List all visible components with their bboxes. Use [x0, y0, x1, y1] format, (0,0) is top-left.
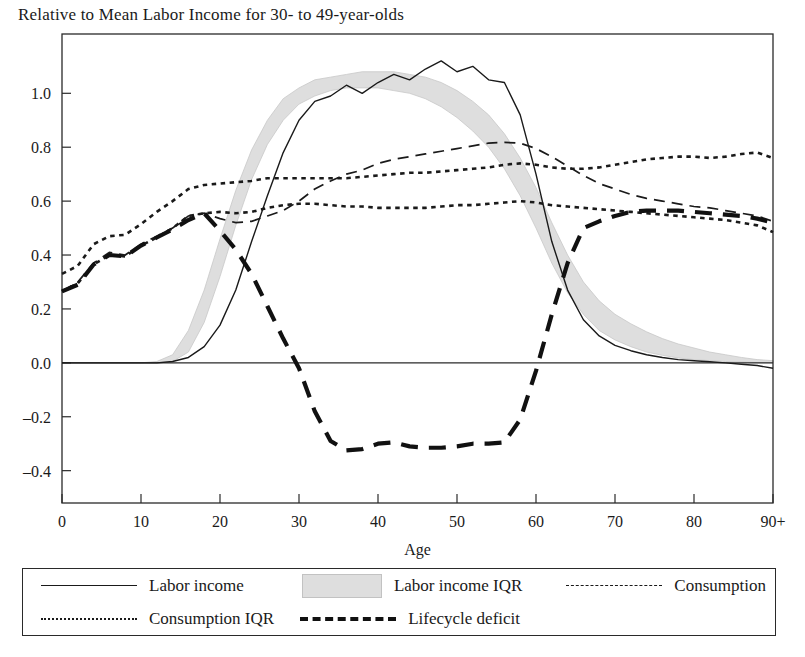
x-axis-tick-label: 90+	[760, 513, 785, 530]
plot-frame	[62, 34, 773, 503]
series-consumption-iqr-upper	[62, 153, 773, 274]
series-labor-income-iqr-band	[62, 72, 773, 363]
legend-row-1: Labor income Labor income IQR Consumptio…	[23, 569, 775, 602]
x-axis-tick-label: 40	[370, 513, 386, 530]
x-axis-tick-label: 30	[291, 513, 307, 530]
y-axis-tick-label: 0.6	[31, 193, 51, 210]
legend-label-labor-income: Labor income	[149, 576, 244, 596]
legend-label-consumption: Consumption	[674, 576, 766, 596]
legend-row-2: Consumption IQR Lifecycle deficit	[23, 602, 775, 635]
y-axis-tick-label: –0.2	[22, 409, 51, 426]
y-axis-tick-label: 0.4	[31, 247, 51, 264]
y-axis-tick-label: 1.0	[31, 85, 51, 102]
legend-swatch-dashed-line-icon	[566, 579, 662, 593]
legend-item-consumption: Consumption	[566, 576, 766, 596]
legend-item-labor-income: Labor income	[41, 576, 244, 596]
legend-swatch-solid-line-icon	[41, 579, 137, 593]
y-axis-tick-label: 0.0	[31, 355, 51, 372]
legend-label-lifecycle-deficit: Lifecycle deficit	[408, 609, 520, 629]
legend-item-consumption-iqr: Consumption IQR	[41, 609, 274, 629]
chart-plot-area: 1.00.80.60.40.20.0–0.2–0.401020304050607…	[0, 0, 805, 560]
legend-swatch-dotted-line-icon	[41, 612, 137, 626]
legend-label-consumption-iqr: Consumption IQR	[149, 609, 274, 629]
y-axis-tick-label: 0.2	[31, 301, 51, 318]
y-axis-tick-label: –0.4	[22, 463, 51, 480]
legend-label-labor-income-iqr: Labor income IQR	[394, 576, 522, 596]
x-axis-tick-label: 80	[686, 513, 702, 530]
x-axis-tick-label: 0	[58, 513, 66, 530]
chart-svg: 1.00.80.60.40.20.0–0.2–0.401020304050607…	[0, 0, 805, 560]
y-axis-tick-label: 0.8	[31, 139, 51, 156]
x-axis-tick-label: 60	[528, 513, 544, 530]
series-consumption-iqr-lower	[62, 201, 773, 291]
legend-item-labor-income-iqr: Labor income IQR	[302, 574, 522, 598]
x-axis-tick-label: 50	[449, 513, 465, 530]
legend-swatch-band-icon	[302, 574, 382, 598]
x-axis-tick-label: 10	[133, 513, 149, 530]
series-consumption	[62, 142, 773, 291]
chart-legend: Labor income Labor income IQR Consumptio…	[22, 568, 776, 636]
legend-item-lifecycle-deficit: Lifecycle deficit	[300, 609, 520, 629]
x-axis-tick-label: 70	[607, 513, 623, 530]
x-axis-tick-label: 20	[212, 513, 228, 530]
x-axis-title: Age	[404, 541, 431, 559]
series-lifecycle-deficit	[62, 211, 773, 451]
legend-swatch-longdash-line-icon	[300, 612, 396, 626]
